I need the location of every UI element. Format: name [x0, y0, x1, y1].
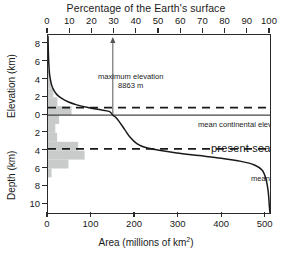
top-axis-tick-label: 0: [44, 15, 49, 26]
y-axis-title-elevation: Elevation (km): [6, 54, 17, 118]
hypsometric-curve-figure: Percentage of the Earth's surface 010203…: [0, 0, 292, 258]
y-axis-tick-label: 2: [35, 91, 40, 102]
annotation-present-sea-level: present sea level: [211, 142, 271, 155]
y-axis-tick-label: 4: [35, 144, 40, 155]
top-axis-tick-label: 90: [242, 15, 253, 26]
arrow-head: [110, 37, 115, 43]
y-axis-tick-label: 8: [35, 37, 40, 48]
top-axis-tick: [91, 28, 92, 33]
top-axis-tick-label: 50: [153, 15, 164, 26]
y-axis-tick-label: 6: [35, 162, 40, 173]
histogram-bar: [48, 115, 59, 124]
x-axis-title: Area (millions of km2): [0, 236, 292, 248]
annotation-maximum-elevation-label: maximum elevation: [98, 72, 163, 81]
y-axis-tick-label: 2: [35, 126, 40, 137]
bottom-axis-tick: [221, 212, 222, 217]
top-axis-tick: [202, 28, 203, 33]
y-axis-tick-label: 0: [35, 109, 40, 120]
bottom-axis-tick-label: 500: [257, 218, 273, 229]
bottom-axis-tick-label: 200: [126, 218, 142, 229]
y-axis-tick-label: 10: [29, 198, 40, 209]
histogram-bar: [48, 160, 68, 169]
annotation-mean-ocean-depth: mean ocean depth 3800 m: [251, 175, 271, 192]
bottom-axis-tick: [133, 212, 134, 217]
top-axis-tick-label: 60: [175, 15, 186, 26]
top-axis-tick: [46, 28, 47, 33]
top-axis-tick: [180, 28, 181, 33]
top-axis-tick: [246, 28, 247, 33]
y-axis-tick-label: 8: [35, 180, 40, 191]
bottom-axis-tick-label: 300: [170, 218, 186, 229]
top-axis-tick-label: 20: [86, 15, 97, 26]
histogram-bar: [48, 124, 55, 133]
histogram-bars: [48, 71, 85, 178]
y-axis-tick-label: 6: [35, 55, 40, 66]
bottom-axis-tick-label: 100: [83, 218, 99, 229]
histogram-bar: [48, 133, 57, 142]
annotation-maximum-elevation-value: 8863 m: [98, 82, 163, 91]
top-axis-tick-labels: 0102030405060708090100: [47, 0, 269, 28]
top-axis-tick-label: 40: [131, 15, 142, 26]
annotation-mean-ocean-depth-label: mean ocean depth: [251, 174, 271, 183]
x-axis-title-text: Area (millions of km2): [98, 237, 193, 248]
y-axis-title-depth: Depth (km): [6, 151, 17, 200]
top-axis-tick: [69, 28, 70, 33]
top-axis-tick: [135, 28, 136, 33]
annotation-mean-ocean-depth-value: 3800 m: [251, 184, 271, 193]
bottom-axis-tick: [264, 212, 265, 217]
top-axis-tick-label: 70: [197, 15, 208, 26]
bottom-axis-tick-label: 400: [213, 218, 229, 229]
bottom-axis-tick: [90, 212, 91, 217]
annotation-mean-continental-elevation: mean continental elevation, 840 m: [198, 121, 271, 130]
top-axis-tick-label: 30: [108, 15, 119, 26]
top-axis-tick: [268, 28, 269, 33]
top-axis-tick: [224, 28, 225, 33]
histogram-bar: [48, 88, 53, 97]
y-axis-tick-label: 4: [35, 73, 40, 84]
bottom-axis-tick: [177, 212, 178, 217]
bottom-axis-tick: [46, 212, 47, 217]
bottom-axis-tick-labels: 0100200300400500: [47, 218, 269, 232]
histogram-bar: [48, 169, 52, 178]
bottom-axis-tick-label: 0: [44, 218, 49, 229]
histogram-bar: [48, 151, 85, 160]
top-axis-tick-label: 80: [219, 15, 230, 26]
histogram-bar: [48, 97, 57, 106]
plot-area: maximum elevation 8863 m mean continenta…: [47, 34, 271, 214]
y-axis-tick-labels: 86420246810: [18, 34, 40, 212]
top-axis-tick-label: 10: [64, 15, 75, 26]
top-axis-tick: [113, 28, 114, 33]
annotation-maximum-elevation: maximum elevation 8863 m: [98, 73, 163, 90]
top-axis-tick-label: 100: [261, 15, 277, 26]
top-axis-tick: [157, 28, 158, 33]
